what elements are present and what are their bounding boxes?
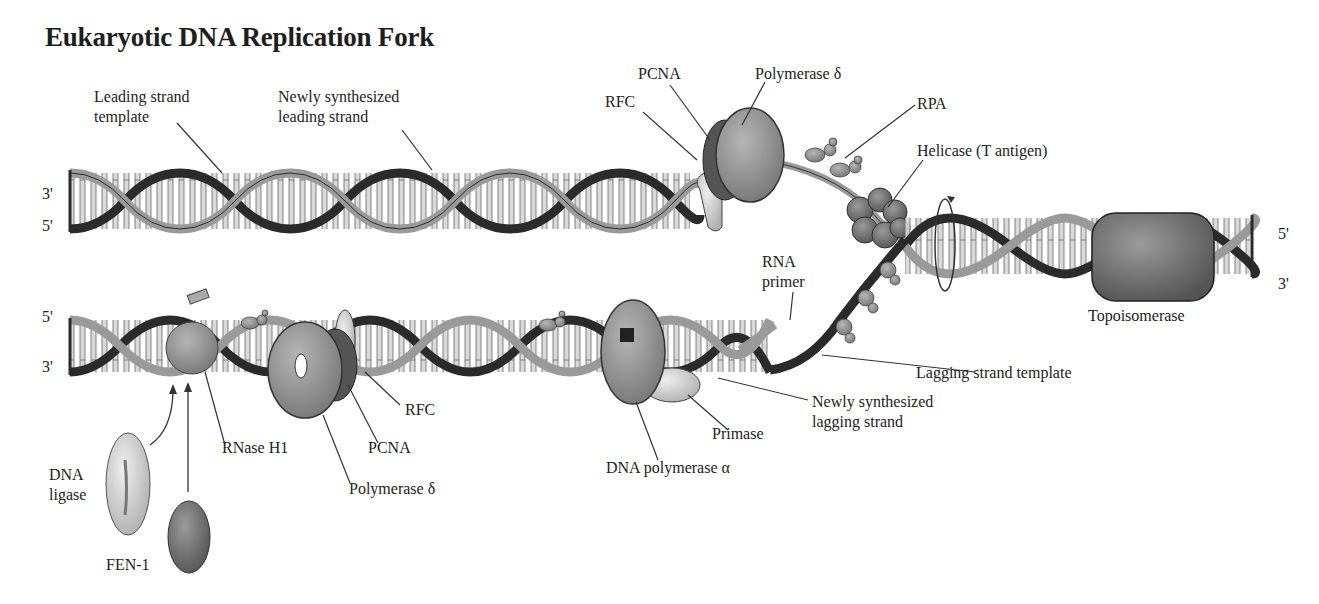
leading-replisome [697, 108, 784, 231]
label-rfc-bottom: RFC [405, 400, 435, 420]
label-leading-strand-template: Leading strand template [94, 87, 190, 127]
rpa-proteins-lagging [836, 262, 900, 343]
label-rfc-top: RFC [605, 92, 635, 112]
label-newly-synthesized-leading: Newly synthesized leading strand [278, 87, 399, 127]
label-rnase-h1: RNase H1 [222, 438, 288, 458]
strand-end-3prime: 3' [42, 358, 53, 376]
replication-fork-diagram [0, 0, 1319, 604]
label-topoisomerase: Topoisomerase [1088, 306, 1185, 326]
excised-primer-fragment [187, 289, 209, 304]
label-fen1: FEN-1 [106, 555, 150, 575]
label-rna-primer: RNA primer [762, 252, 805, 292]
topoisomerase-protein [1092, 213, 1214, 301]
label-dna-ligase: DNA ligase [49, 465, 86, 505]
label-helicase: Helicase (T antigen) [917, 141, 1047, 161]
label-rpa: RPA [917, 94, 947, 114]
label-polymerase-delta-top: Polymerase δ [755, 64, 841, 84]
leading-strand-helix [70, 170, 700, 232]
strand-end-3prime: 3' [42, 185, 53, 203]
strand-end-3prime: 3' [1278, 275, 1289, 293]
label-dna-polymerase-alpha: DNA polymerase α [606, 458, 730, 478]
strand-end-5prime: 5' [1278, 225, 1289, 243]
rnase-h1-protein [166, 322, 218, 374]
label-pcna-top: PCNA [638, 64, 681, 84]
label-lagging-strand-template: Lagging strand template [916, 363, 1072, 383]
dna-ligase-protein [106, 433, 150, 535]
strand-end-5prime: 5' [42, 308, 53, 326]
fen1-protein [168, 501, 210, 573]
label-newly-synthesized-lagging: Newly synthesized lagging strand [812, 392, 933, 432]
strand-end-5prime: 5' [42, 217, 53, 235]
label-pcna-bottom: PCNA [368, 438, 411, 458]
arrow-icon [150, 390, 188, 492]
label-primase: Primase [712, 424, 764, 444]
label-polymerase-delta-bottom: Polymerase δ [349, 479, 435, 499]
